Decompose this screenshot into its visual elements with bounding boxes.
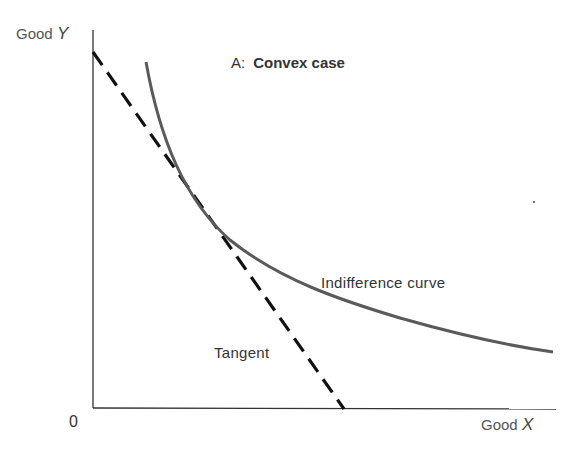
y-axis-label: Good Y <box>16 24 68 44</box>
x-axis <box>93 408 556 409</box>
tangent-label: Tangent <box>214 344 269 361</box>
indifference-curve <box>146 62 553 352</box>
indifference-curve-label: Indifference curve <box>321 274 445 291</box>
x-axis-label-text: Good <box>481 416 518 433</box>
panel-title-text: Convex case <box>253 54 345 71</box>
x-axis-label: Good X <box>481 415 533 435</box>
y-axis-label-text: Good <box>16 25 53 42</box>
origin-label: 0 <box>69 413 78 431</box>
panel-prefix: A: <box>231 54 245 71</box>
panel-title: A:Convex case <box>231 54 345 71</box>
x-axis-variable: X <box>522 415 533 434</box>
y-axis-variable: Y <box>57 24 68 43</box>
speck-mark <box>533 201 535 203</box>
